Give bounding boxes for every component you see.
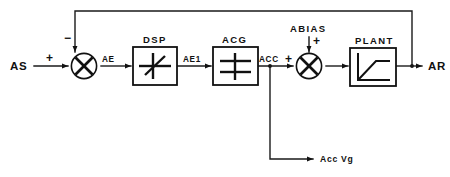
input-label-as: AS [10,60,27,72]
error-summer-plus-sign: + [46,51,53,65]
signal-label-ae1: AE1 [183,55,201,64]
signal-label-ae: AE [102,55,115,64]
output-label-ar: AR [428,60,446,72]
error-summer-minus-sign: − [64,31,71,45]
abias-label: ABIAS [290,23,327,34]
signal-label-acc: ACC [259,55,279,64]
block-label-acg: ACG [222,34,247,45]
block-diagram: AS + − AE DSP AE1 ACG ACC + ABIAS + PLAN… [0,0,450,177]
bias-summer-plus-sign-left: + [285,52,292,66]
aux-output-label-acc-vg: Acc Vg [320,154,353,164]
diagram-labels: AS + − AE DSP AE1 ACG ACC + ABIAS + PLAN… [0,0,450,177]
block-label-plant: PLANT [355,35,394,46]
block-label-dsp: DSP [143,34,167,45]
bias-summer-plus-sign-top: + [313,34,320,48]
